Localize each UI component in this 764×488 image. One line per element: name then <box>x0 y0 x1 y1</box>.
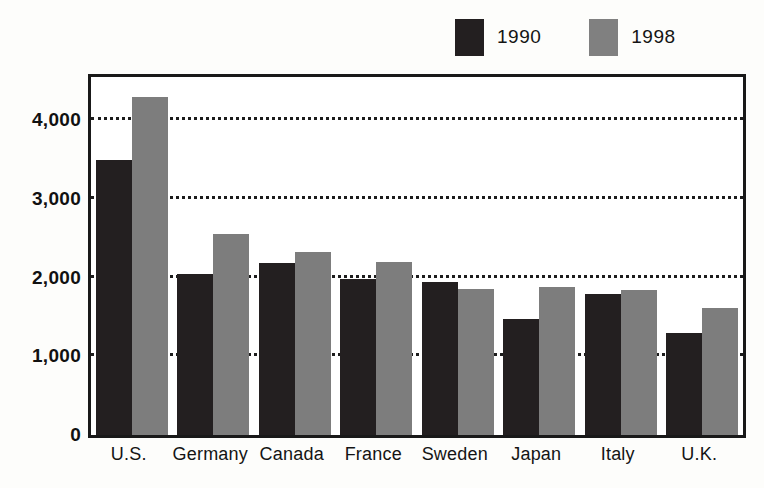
bar[interactable] <box>621 290 657 435</box>
y-axis-tick-2000: 2,000 <box>0 267 81 289</box>
bar[interactable] <box>503 319 539 435</box>
y-axis-tick-3000: 3,000 <box>0 188 81 210</box>
bar-group <box>580 77 662 435</box>
bar[interactable] <box>702 308 738 435</box>
x-axis-tick-us: U.S. <box>111 444 147 465</box>
chart-figure: 1990 1998 01,0002,0003,0004,000 U.S.Germ… <box>0 0 764 488</box>
x-axis-tick-italy: Italy <box>601 444 635 465</box>
bar[interactable] <box>177 274 213 435</box>
bar[interactable] <box>585 294 621 435</box>
y-axis-tick-0: 0 <box>0 424 81 446</box>
bar-group <box>336 77 418 435</box>
bar[interactable] <box>132 97 168 435</box>
x-axis-tick-germany: Germany <box>173 444 248 465</box>
plot-area <box>88 74 746 438</box>
bar[interactable] <box>213 234 249 435</box>
bar[interactable] <box>295 252 331 435</box>
bars-layer <box>91 77 743 435</box>
bar[interactable] <box>259 263 295 435</box>
x-axis-tick-france: France <box>345 444 402 465</box>
bar-group <box>417 77 499 435</box>
bar[interactable] <box>340 279 376 435</box>
bar[interactable] <box>96 160 132 435</box>
plot-inner <box>91 77 743 435</box>
legend-swatch-1998 <box>589 19 618 56</box>
bar[interactable] <box>666 333 702 435</box>
legend-entry-1990[interactable]: 1990 <box>455 19 541 56</box>
legend-swatch-1990 <box>455 19 484 56</box>
bar-group <box>499 77 581 435</box>
legend-label-1990: 1990 <box>497 26 541 48</box>
bar[interactable] <box>422 282 458 435</box>
x-axis-tick-canada: Canada <box>260 444 324 465</box>
bar[interactable] <box>539 287 575 435</box>
x-axis-tick-japan: Japan <box>511 444 561 465</box>
bar-group <box>662 77 744 435</box>
y-axis-tick-4000: 4,000 <box>0 109 81 131</box>
x-axis-labels: U.S.GermanyCanadaFranceSwedenJapanItalyU… <box>88 444 746 474</box>
legend-entry-1998[interactable]: 1998 <box>589 19 675 56</box>
bar-group <box>254 77 336 435</box>
y-axis-tick-1000: 1,000 <box>0 345 81 367</box>
x-axis-tick-sweden: Sweden <box>422 444 488 465</box>
bar-group <box>91 77 173 435</box>
chart-legend: 1990 1998 <box>455 17 676 57</box>
bar[interactable] <box>376 262 412 435</box>
bar-group <box>173 77 255 435</box>
legend-label-1998: 1998 <box>631 26 675 48</box>
bar[interactable] <box>458 289 494 435</box>
x-axis-tick-uk: U.K. <box>681 444 717 465</box>
